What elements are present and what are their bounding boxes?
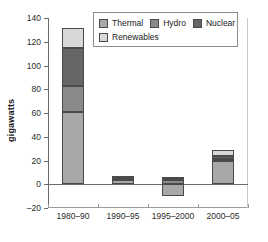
x-axis-label: 1995–2000 xyxy=(148,212,198,221)
y-axis-tick-label: 20 xyxy=(32,157,41,165)
legend-item-renewables: Renewables xyxy=(99,33,159,42)
y-axis-title: gigawatts xyxy=(4,80,18,160)
y-axis-tick xyxy=(44,42,48,43)
bar-segment-nuclear xyxy=(112,178,134,180)
plot-frame-right xyxy=(247,18,248,208)
x-axis-label: 1980–90 xyxy=(48,212,98,221)
bar-1980–90 xyxy=(62,18,84,208)
x-axis-label: 1990–95 xyxy=(98,212,148,221)
bar-segment-renewables xyxy=(162,177,184,179)
y-axis-tick xyxy=(44,208,48,209)
legend-swatch-icon xyxy=(193,19,202,28)
stacked-bar-chart: gigawatts –20020406080100120140 1980–901… xyxy=(0,0,268,242)
chart-legend: ThermalHydroNuclear Renewables xyxy=(93,12,238,47)
legend-item-nuclear: Nuclear xyxy=(193,19,235,28)
y-axis-tick xyxy=(44,89,48,90)
bar-segment-nuclear xyxy=(212,156,234,160)
x-axis-tick xyxy=(98,204,99,208)
legend-label: Nuclear xyxy=(206,19,235,28)
y-axis-tick-label: 0 xyxy=(36,180,41,188)
y-axis-tick xyxy=(44,184,48,185)
legend-item-hydro: Hydro xyxy=(150,19,186,28)
y-axis-line xyxy=(48,18,49,208)
y-axis-tick-label: –20 xyxy=(27,204,41,212)
x-axis-label: 2000–05 xyxy=(198,212,248,221)
x-axis-tick xyxy=(148,204,149,208)
x-axis-tick xyxy=(248,204,249,208)
bar-segment-renewables xyxy=(112,176,134,178)
legend-label: Renewables xyxy=(112,33,159,42)
legend-label: Thermal xyxy=(112,19,143,28)
y-axis-tick-label: 120 xyxy=(27,38,41,46)
y-axis-tick-label: 80 xyxy=(32,85,41,93)
y-axis-tick-label: 60 xyxy=(32,109,41,117)
y-axis-tick-label: 140 xyxy=(27,14,41,22)
y-axis-tick-label: 100 xyxy=(27,62,41,70)
y-axis-tick xyxy=(44,66,48,67)
y-axis-tick xyxy=(44,137,48,138)
legend-swatch-icon xyxy=(99,33,108,42)
x-axis-tick xyxy=(198,204,199,208)
legend-label: Hydro xyxy=(163,19,186,28)
bar-segment-renewables xyxy=(212,150,234,156)
bar-segment-thermal xyxy=(162,184,184,196)
legend-swatch-icon xyxy=(150,19,159,28)
bar-segment-hydro xyxy=(212,159,234,161)
bar-segment-thermal xyxy=(212,161,234,185)
legend-item-thermal: Thermal xyxy=(99,19,143,28)
legend-row-primary: ThermalHydroNuclear xyxy=(99,16,233,30)
y-axis-tick-label: 40 xyxy=(32,133,41,141)
y-axis-tick xyxy=(44,113,48,114)
x-axis-tick xyxy=(48,204,49,208)
legend-swatch-icon xyxy=(99,19,108,28)
y-axis-tick xyxy=(44,18,48,19)
legend-row-secondary: Renewables xyxy=(99,30,233,44)
bar-segment-hydro xyxy=(62,86,84,112)
bar-segment-renewables xyxy=(62,28,84,48)
y-axis-tick xyxy=(44,161,48,162)
bar-segment-thermal xyxy=(62,112,84,184)
bar-segment-nuclear xyxy=(62,48,84,86)
